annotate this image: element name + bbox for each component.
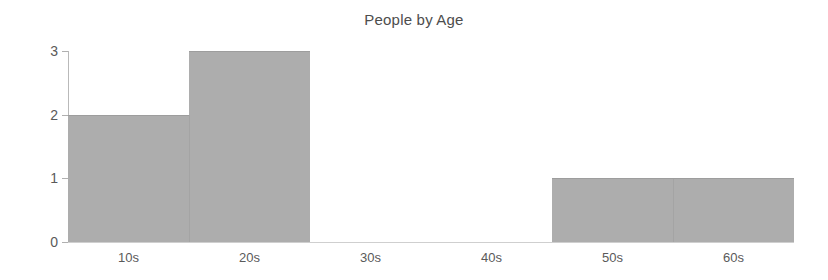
x-tick-label-40s: 40s — [431, 250, 552, 265]
bar-60s[interactable] — [673, 178, 794, 242]
x-tick-label-50s: 50s — [552, 250, 673, 265]
y-tick-label-2: 2 — [12, 108, 58, 122]
chart-title: People by Age — [0, 11, 828, 29]
x-tick-label-30s: 30s — [310, 250, 431, 265]
x-tick-label-10s: 10s — [68, 250, 189, 265]
bar-10s[interactable] — [68, 115, 189, 242]
y-axis-labels: 3 2 1 0 — [6, 0, 58, 280]
bar-50s[interactable] — [552, 178, 673, 242]
x-axis-line — [68, 242, 794, 243]
bar-boundary-10s-20s — [189, 115, 190, 242]
x-tick-label-20s: 20s — [189, 250, 310, 265]
bar-boundary-50s-60s — [673, 178, 674, 242]
chart-container: People by Age 3 2 1 0 10s 20s 30s 40s 50… — [0, 0, 828, 280]
x-tick-label-60s: 60s — [673, 250, 794, 265]
y-tick-label-0: 0 — [12, 235, 58, 249]
y-tick-label-3: 3 — [12, 44, 58, 58]
bar-20s[interactable] — [189, 51, 310, 242]
plot-area — [68, 51, 794, 242]
y-tick-label-1: 1 — [12, 171, 58, 185]
